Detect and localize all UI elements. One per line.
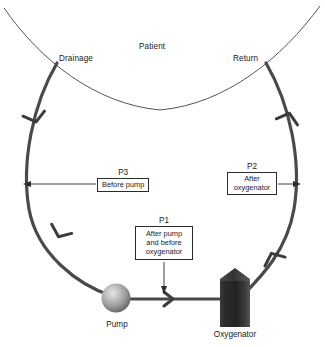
p1-line-1: After pump [138, 229, 190, 238]
p2-line-2: oxygenator [230, 183, 274, 192]
p1-key: P1 [135, 216, 193, 225]
pressure-port-p2[interactable]: P2 After oxygenator [227, 162, 277, 195]
return-label: Return [233, 54, 258, 63]
pump-label: Pump [100, 320, 134, 329]
p3-box: Before pump [97, 178, 149, 192]
circuit-diagram: Patient Drainage Return P3 Before pump P… [0, 0, 325, 347]
oxygenator-label: Oxygenator [204, 330, 266, 339]
p1-line-3: oxygenator [138, 247, 190, 256]
drainage-label: Drainage [59, 54, 93, 63]
sphere-pump-icon [102, 284, 131, 313]
p3-pointer [23, 181, 96, 187]
patient-label: Patient [139, 42, 165, 51]
oxygenator-box-icon [220, 268, 250, 327]
pressure-port-p1[interactable]: P1 After pump and before oxygenator [135, 216, 193, 260]
p1-pointer [161, 262, 167, 294]
patient-arc [4, 6, 320, 110]
p2-key: P2 [227, 162, 277, 171]
flow-marker-drainage-lower [48, 224, 72, 241]
p2-line-1: After [230, 174, 274, 183]
p3-key: P3 [97, 168, 149, 177]
p1-box: After pump and before oxygenator [135, 226, 193, 260]
p1-line-2: and before [138, 238, 190, 247]
pressure-port-p3[interactable]: P3 Before pump [97, 168, 149, 192]
p2-box: After oxygenator [227, 172, 277, 195]
p3-line-1: Before pump [102, 180, 144, 189]
